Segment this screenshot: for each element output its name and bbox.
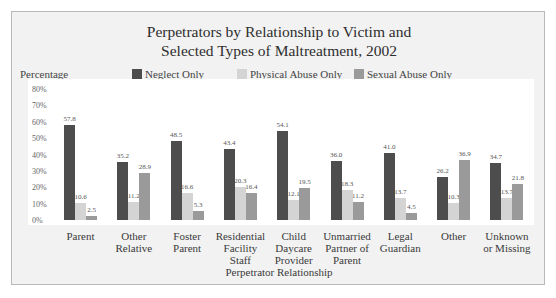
legend-swatch-neglect [132, 69, 142, 79]
bar [246, 193, 257, 220]
data-label: 54.1 [271, 121, 295, 129]
data-label: 16.4 [239, 183, 263, 191]
bar [448, 203, 459, 220]
data-label: 48.5 [164, 131, 188, 139]
x-axis-title: Perpetrator Relationship [12, 266, 546, 278]
data-label: 26.2 [431, 167, 455, 175]
data-label: 2.5 [80, 206, 104, 214]
bar [277, 131, 288, 220]
bar [331, 161, 342, 220]
chart-title-line-1: Perpetrators by Relationship to Victim a… [12, 22, 546, 41]
data-label: 11.2 [346, 192, 370, 200]
bar [235, 187, 246, 220]
bar [353, 202, 364, 220]
y-tick-label: 40% [32, 150, 47, 159]
data-label: 36.9 [453, 150, 477, 158]
y-tick-label: 20% [32, 183, 47, 192]
bar [384, 153, 395, 220]
bar [86, 216, 97, 220]
bar [512, 184, 523, 220]
data-label: 10.6 [69, 193, 93, 201]
legend-swatch-sexual [354, 69, 364, 79]
y-tick-label: 30% [32, 166, 47, 175]
legend-swatch-physical [237, 69, 247, 79]
bar [64, 125, 75, 220]
bar [171, 141, 182, 220]
data-label: 28.9 [133, 163, 157, 171]
x-tick-label: Unknownor Missing [475, 230, 539, 254]
chart-title-line-2: Selected Types of Maltreatment, 2002 [12, 41, 546, 60]
bar [406, 213, 417, 220]
bar [459, 160, 470, 220]
bar [193, 211, 204, 220]
chart-frame: Perpetrators by Relationship to Victim a… [11, 11, 545, 285]
data-label: 18.3 [335, 180, 359, 188]
data-label: 43.4 [217, 139, 241, 147]
y-tick-label: 70% [32, 101, 47, 110]
data-label: 36.0 [324, 151, 348, 159]
chart-title: Perpetrators by Relationship to Victim a… [12, 22, 546, 60]
y-tick-label: 10% [32, 199, 47, 208]
y-tick-label: 80% [32, 85, 47, 94]
y-tick-label: 50% [32, 134, 47, 143]
plot-area: 0%10%20%30%40%50%60%70%80%57.810.62.535.… [28, 79, 534, 225]
data-label: 19.5 [293, 178, 317, 186]
bar [288, 200, 299, 220]
data-label: 13.7 [388, 188, 412, 196]
y-tick-label: 0% [32, 216, 43, 225]
bar [501, 198, 512, 220]
data-label: 4.5 [399, 203, 423, 211]
data-label: 5.3 [186, 201, 210, 209]
bar [139, 173, 150, 220]
bar [299, 188, 310, 220]
data-label: 57.8 [58, 115, 82, 123]
data-label: 16.6 [175, 183, 199, 191]
data-label: 21.8 [506, 174, 530, 182]
bar [128, 202, 139, 220]
y-tick-label: 60% [32, 117, 47, 126]
data-label: 34.7 [484, 153, 508, 161]
data-label: 35.2 [111, 152, 135, 160]
data-label: 41.0 [377, 143, 401, 151]
